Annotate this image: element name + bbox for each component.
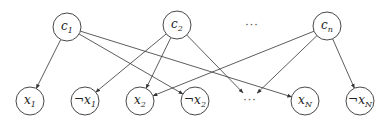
clause-node-cn: cn <box>313 12 341 40</box>
edge-cn-to-nxN <box>333 39 355 88</box>
edge-c2-to-x2 <box>146 38 171 89</box>
edge-c1-to-x1 <box>36 40 60 89</box>
clause-node-c2: c2 <box>163 11 191 39</box>
nodes-group: c1c2cnx1¬x1x2¬x2xN¬xN <box>16 11 374 115</box>
clause-node-c1: c1 <box>53 13 81 41</box>
literal-node-nx2: ¬x2 <box>181 87 209 115</box>
edge-c1-to-xN <box>80 31 291 97</box>
literal-node-nxN: ¬xN <box>346 87 374 115</box>
literal-node-x1: x1 <box>16 87 44 115</box>
edge-cn-to-bottom_ellipsis <box>257 36 317 93</box>
literal-node-x2: x2 <box>126 87 154 115</box>
top-ellipsis: ··· <box>245 19 259 32</box>
literal-node-nx1: ¬x1 <box>71 87 99 115</box>
edge-c2-to-nx1 <box>96 34 166 92</box>
edge-cn-to-x2 <box>153 31 314 96</box>
edge-c1-to-nx2 <box>79 34 183 94</box>
bipartite-graph-diagram: c1c2cnx1¬x1x2¬x2xN¬xN ··· ··· <box>0 0 391 126</box>
bottom-ellipsis: ··· <box>243 94 257 107</box>
literal-node-xN: xN <box>291 87 319 115</box>
edge-c2-to-bottom_ellipsis <box>187 35 243 93</box>
